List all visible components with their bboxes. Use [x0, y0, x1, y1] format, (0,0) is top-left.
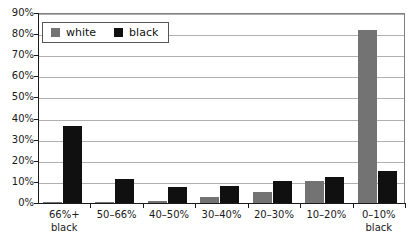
bar-white: [43, 202, 62, 203]
y-tick-label: 0%: [0, 198, 34, 208]
y-tick-label: 30%: [0, 135, 34, 145]
legend-item-black: black: [114, 27, 158, 38]
x-axis-label-line1: 20–30%: [248, 208, 300, 221]
x-axis-label-line1: 66%+: [38, 208, 90, 221]
bar-black: [63, 126, 82, 203]
bar-cluster: [248, 13, 300, 203]
bar-chart: 90%80%70%60%50%40%30%20%10%0% 66%+black5…: [0, 0, 413, 246]
x-axis-line: [38, 203, 405, 204]
x-axis-label-line1: 30–40%: [195, 208, 247, 221]
bar-black: [273, 181, 292, 203]
bar-white: [305, 181, 324, 203]
x-axis-label-line2: black: [353, 221, 405, 234]
x-axis-label: 30–40%: [195, 208, 247, 221]
black-square-swatch: [114, 28, 123, 37]
x-axis-label-line2: black: [38, 221, 90, 234]
x-axis-label: 66%+black: [38, 208, 90, 234]
y-tick-label: 90%: [0, 8, 34, 18]
x-axis-label: 20–30%: [248, 208, 300, 221]
x-axis-label: 0–10%black: [353, 208, 405, 234]
bar-cluster: [353, 13, 405, 203]
x-axis-label: 50–66%: [90, 208, 142, 221]
cropped-title-remnant: [0, 0, 413, 4]
bar-black: [325, 177, 344, 203]
x-axis-label: 40–50%: [143, 208, 195, 221]
x-axis-label-line1: 10–20%: [300, 208, 352, 221]
x-axis-label-line1: 0–10%: [353, 208, 405, 221]
bar-black: [115, 179, 134, 203]
y-tick-label: 50%: [0, 92, 34, 102]
bar-cluster: [195, 13, 247, 203]
y-tick-label: 40%: [0, 114, 34, 124]
bar-white: [358, 30, 377, 203]
legend-label: black: [129, 27, 158, 38]
bar-black: [168, 187, 187, 203]
x-axis-label: 10–20%: [300, 208, 352, 221]
y-tick-label: 10%: [0, 177, 34, 187]
y-tick-label: 70%: [0, 50, 34, 60]
bar-black: [378, 171, 397, 203]
bar-white: [148, 201, 167, 203]
chart-legend: whiteblack: [42, 22, 169, 43]
legend-label: white: [66, 27, 96, 38]
gray-square-swatch: [51, 28, 60, 37]
y-tick-label: 20%: [0, 156, 34, 166]
x-axis-label-line1: 40–50%: [143, 208, 195, 221]
y-tick-label: 80%: [0, 29, 34, 39]
bar-white: [95, 202, 114, 203]
bar-cluster: [300, 13, 352, 203]
legend-item-white: white: [51, 27, 96, 38]
x-axis-label-line1: 50–66%: [90, 208, 142, 221]
bar-white: [253, 192, 272, 203]
y-tick-label: 60%: [0, 71, 34, 81]
x-axis-separator: [405, 203, 406, 208]
bar-black: [220, 186, 239, 203]
bar-white: [200, 197, 219, 203]
